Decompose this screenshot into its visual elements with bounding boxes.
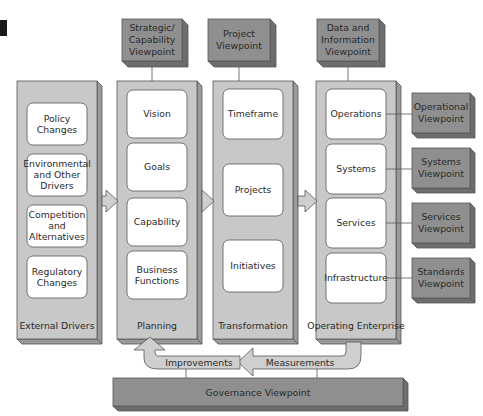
item-label: Infrastructure <box>324 272 388 283</box>
column-label: Operating Enterprise <box>307 320 405 331</box>
column-label: Planning <box>137 320 177 331</box>
item-box: Operations <box>326 89 386 139</box>
item-label: Goals <box>144 161 170 172</box>
viewpoint-governance-bottom <box>113 406 408 411</box>
viewpoint-operational-bottom <box>412 133 475 138</box>
viewpoint-data-bottom <box>317 61 385 67</box>
item-label: Services <box>336 217 375 228</box>
viewpoint-label: Standards <box>417 266 464 277</box>
viewpoint-governance-side <box>403 378 408 411</box>
column-label: External Drivers <box>20 320 95 331</box>
column-transformation-bottom <box>213 339 298 344</box>
item-box: Goals <box>127 143 187 191</box>
item-box: Projects <box>223 164 283 216</box>
item-box: Infrastructure <box>324 253 388 303</box>
viewpoint-standards: StandardsViewpoint <box>412 258 475 303</box>
item-label: Initiatives <box>230 260 276 271</box>
item-box: RegulatoryChanges <box>27 256 87 298</box>
viewpoint-label: Operational <box>414 101 469 112</box>
column-planning-side <box>197 81 202 344</box>
viewpoint-label: Services <box>421 211 460 222</box>
item-label: Business <box>137 264 178 275</box>
item-box: CompetitionandAlternatives <box>27 205 87 247</box>
item-label: Drivers <box>40 180 74 191</box>
item-label: Functions <box>135 275 180 286</box>
arrow-planning-to-transformation <box>202 190 214 212</box>
viewpoint-label: Viewpoint <box>216 40 262 51</box>
item-label: Alternatives <box>29 231 85 242</box>
item-box: PolicyChanges <box>27 103 87 145</box>
viewpoint-governance: Governance Viewpoint <box>113 378 408 411</box>
corner-marker <box>0 20 7 36</box>
column-external-drivers: PolicyChangesEnvironmentaland OtherDrive… <box>17 81 102 344</box>
viewpoint-data-side <box>379 19 385 67</box>
item-label: and <box>48 220 66 231</box>
viewpoint-label: Viewpoint <box>418 168 464 179</box>
viewpoint-operational: OperationalViewpoint <box>412 93 475 138</box>
item-label: Competition <box>29 209 86 220</box>
viewpoint-systems-bottom <box>412 188 475 193</box>
viewpoint-project: ProjectViewpoint <box>208 19 276 67</box>
item-box: Timeframe <box>223 89 283 139</box>
item-label: and Other <box>34 169 81 180</box>
item-label: Capability <box>134 216 181 227</box>
viewpoint-project-bottom <box>208 61 276 67</box>
enterprise-architecture-diagram: Strategic/CapabilityViewpointProjectView… <box>0 0 483 416</box>
item-label: Projects <box>235 184 272 195</box>
item-box: Services <box>326 198 386 248</box>
column-external-drivers-bottom <box>17 339 102 344</box>
item-box: Capability <box>127 198 187 246</box>
item-label: Environmental <box>23 158 91 169</box>
viewpoint-strategic-side <box>182 19 188 67</box>
viewpoint-label: Viewpoint <box>325 46 371 57</box>
viewpoint-systems-side <box>470 148 475 193</box>
viewpoint-strategic-bottom <box>122 61 188 67</box>
measurements-label: Measurements <box>266 357 335 368</box>
viewpoint-services-bottom <box>412 243 475 248</box>
column-label: Transformation <box>217 320 288 331</box>
viewpoint-services-side <box>470 203 475 248</box>
item-label: Systems <box>336 163 376 174</box>
arrow-transformation-to-operating <box>298 190 317 212</box>
column-planning-bottom <box>117 339 202 344</box>
viewpoint-standards-side <box>470 258 475 303</box>
column-operating-enterprise-side <box>396 81 401 344</box>
item-label: Policy <box>44 113 71 124</box>
item-box: Vision <box>127 90 187 138</box>
viewpoint-label: Viewpoint <box>418 278 464 289</box>
item-box: Environmentaland OtherDrivers <box>23 154 91 196</box>
viewpoint-data: Data andInformationViewpoint <box>317 19 385 67</box>
viewpoint-standards-bottom <box>412 298 475 303</box>
viewpoint-label: Information <box>321 34 375 45</box>
viewpoint-operational-side <box>470 93 475 138</box>
item-label: Changes <box>37 124 78 135</box>
viewpoint-project-side <box>270 19 276 67</box>
item-box: Systems <box>326 144 386 194</box>
item-label: Timeframe <box>227 108 279 119</box>
item-box: Initiatives <box>223 240 283 292</box>
viewpoint-label: Project <box>223 28 255 39</box>
item-label: Operations <box>330 108 381 119</box>
item-label: Vision <box>143 108 171 119</box>
viewpoint-services: ServicesViewpoint <box>412 203 475 248</box>
column-operating-enterprise: OperationsSystemsServicesInfrastructureO… <box>307 81 405 344</box>
arrow-drivers-to-planning <box>102 190 118 212</box>
viewpoint-systems: SystemsViewpoint <box>412 148 475 193</box>
viewpoint-label: Viewpoint <box>418 223 464 234</box>
item-label: Changes <box>37 277 78 288</box>
viewpoint-label: Viewpoint <box>129 46 175 57</box>
improvements-label: Improvements <box>165 357 233 368</box>
viewpoint-label: Viewpoint <box>418 113 464 124</box>
viewpoint-label: Systems <box>421 156 461 167</box>
viewpoint-label: Capability <box>129 34 176 45</box>
item-label: Regulatory <box>32 266 83 277</box>
column-transformation-side <box>293 81 298 344</box>
column-planning: VisionGoalsCapabilityBusinessFunctionsPl… <box>117 81 202 344</box>
viewpoint-strategic: Strategic/CapabilityViewpoint <box>122 19 188 67</box>
viewpoint-label: Data and <box>327 22 370 33</box>
item-box: BusinessFunctions <box>127 251 187 299</box>
governance-label: Governance Viewpoint <box>206 387 311 398</box>
column-transformation: TimeframeProjectsInitiativesTransformati… <box>213 81 298 344</box>
column-external-drivers-side <box>97 81 102 344</box>
viewpoint-label: Strategic/ <box>129 22 175 33</box>
